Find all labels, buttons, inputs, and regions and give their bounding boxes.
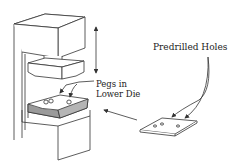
pegs-label: Pegs in Lower Die bbox=[96, 79, 140, 99]
pegs-label-line2: Lower Die bbox=[96, 89, 140, 99]
workpiece-sheet bbox=[140, 118, 197, 136]
feed-arrow bbox=[104, 110, 137, 120]
upper-head bbox=[14, 14, 85, 58]
lower-die bbox=[22, 95, 90, 160]
predrilled-holes-label: Predrilled Holes bbox=[153, 42, 227, 52]
holes-leaders bbox=[172, 57, 209, 118]
pegs-leaders bbox=[60, 81, 94, 97]
pegs-label-line1: Pegs in bbox=[96, 79, 140, 89]
upper-die bbox=[28, 58, 84, 79]
